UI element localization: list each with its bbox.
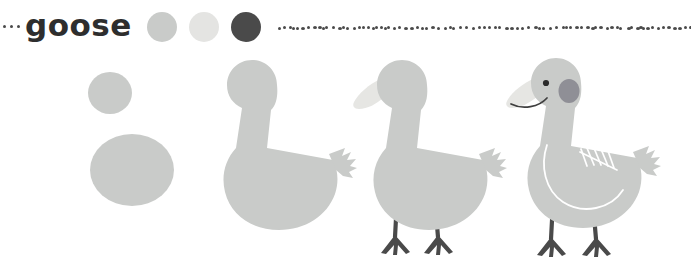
right-foot	[424, 235, 453, 255]
color-swatch-ink-dark	[231, 12, 261, 42]
color-swatch-beak-white	[189, 12, 219, 42]
step-3-beak-legs	[345, 52, 520, 260]
step-1-shapes	[60, 52, 210, 260]
dotted-rule	[278, 26, 689, 31]
head-circle	[88, 72, 132, 114]
eye	[543, 80, 549, 86]
head-neck-body-silhouette	[223, 60, 337, 230]
illustration-page: goose	[0, 0, 691, 260]
color-swatch-body-gray	[147, 12, 177, 42]
header-row: goose	[0, 0, 691, 52]
body-oval	[90, 134, 174, 206]
page-title: goose	[25, 6, 132, 44]
leading-dots	[2, 25, 24, 31]
left-foot	[381, 235, 410, 255]
right-foot	[582, 237, 611, 257]
tutorial-steps	[0, 52, 691, 260]
body-silhouette	[373, 60, 487, 230]
left-foot	[537, 237, 566, 257]
cheek-patch	[559, 79, 580, 103]
step-4-face-wing	[495, 52, 691, 260]
